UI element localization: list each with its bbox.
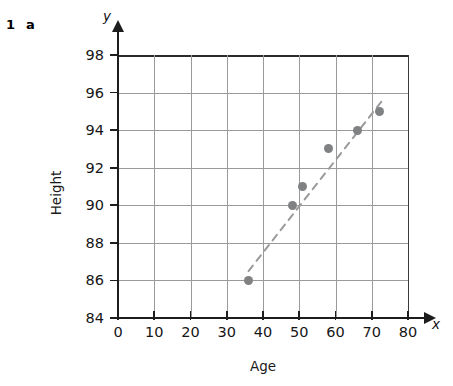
y-axis-tick-mark [110, 92, 119, 94]
x-axis-tick-mark [298, 311, 300, 320]
x-axis-tick-label: 30 [207, 325, 247, 340]
x-axis-line [110, 317, 427, 319]
y-axis-tick-label: 94 [56, 123, 104, 138]
x-axis-tick-label: 70 [352, 325, 392, 340]
y-axis-tick-labels: 8486889092949698 [56, 0, 104, 386]
y-axis-tick-label: 98 [56, 48, 104, 63]
x-axis-tick-label: 20 [171, 325, 211, 340]
x-axis-tick-label: 10 [134, 325, 174, 340]
y-axis-tick-label: 86 [56, 273, 104, 288]
y-axis-arrowhead-icon [112, 20, 124, 32]
x-axis-tick-label: 0 [98, 325, 138, 340]
x-axis-title: Age [118, 358, 408, 374]
x-axis-tick-mark [117, 311, 119, 320]
question-number: 1 [6, 18, 15, 31]
data-point [353, 126, 362, 135]
y-axis-line [117, 30, 119, 320]
gridline-vertical [408, 55, 409, 318]
data-point [375, 107, 384, 116]
y-axis-tick-mark [110, 242, 119, 244]
y-axis-tick-mark [110, 54, 119, 56]
question-part-letter: a [26, 18, 35, 31]
x-axis-tick-mark [371, 311, 373, 320]
data-point [298, 182, 307, 191]
y-axis-tick-mark [110, 129, 119, 131]
y-axis-tick-label: 92 [56, 161, 104, 176]
y-axis-tick-mark [110, 204, 119, 206]
data-point [244, 276, 253, 285]
x-axis-tick-mark [226, 311, 228, 320]
y-axis-tick-mark [110, 280, 119, 282]
x-axis-tick-label: 60 [316, 325, 356, 340]
y-axis-tick-label: 96 [56, 86, 104, 101]
x-axis-tick-mark [153, 311, 155, 320]
x-axis-tick-mark [407, 311, 409, 320]
x-axis-tick-mark [190, 311, 192, 320]
worksheet-page: 1 a y x Height Age 8486889092949698 0102… [0, 0, 453, 386]
data-point [324, 144, 333, 153]
y-axis-tick-label: 90 [56, 198, 104, 213]
x-axis-tick-label: 80 [388, 325, 428, 340]
x-axis-tick-label: 50 [279, 325, 319, 340]
x-axis-tick-label: 40 [243, 325, 283, 340]
data-point [288, 201, 297, 210]
y-axis-tick-mark [110, 167, 119, 169]
y-axis-tick-label: 88 [56, 236, 104, 251]
x-axis-tick-mark [335, 311, 337, 320]
y-axis-tick-label: 84 [56, 311, 104, 326]
data-points-layer [118, 55, 408, 318]
y-axis-variable-label: y [103, 8, 111, 24]
x-axis-arrowhead-icon [424, 312, 436, 324]
plot-area [118, 55, 408, 318]
x-axis-tick-mark [262, 311, 264, 320]
